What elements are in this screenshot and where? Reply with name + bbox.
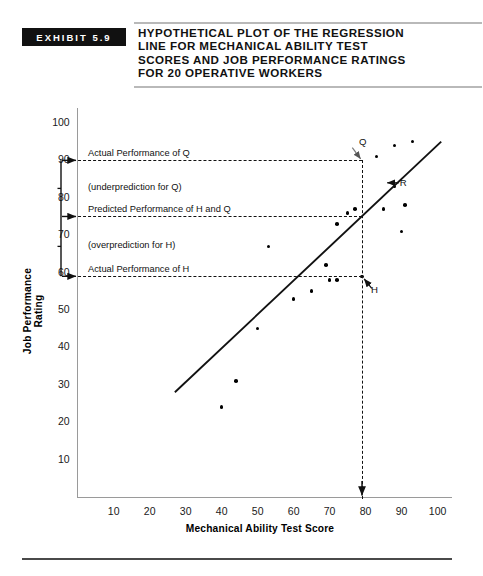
x-tick-10: 10 (101, 505, 127, 517)
x-tick-20: 20 (137, 505, 163, 517)
x-tick-40: 40 (209, 505, 235, 517)
scatter-point (310, 289, 314, 293)
y-axis-title: Job Performance Rating (22, 251, 44, 371)
y-axis-line (77, 108, 78, 498)
scatter-point (220, 405, 224, 409)
y-tick-90: 90 (44, 153, 70, 165)
annotation-actual-performance-h: Actual Performance of H (88, 264, 189, 274)
annotation-predicted-performance-h-q: Predicted Performance of H and Q (88, 204, 231, 214)
scatter-plot: Job Performance Rating Mechanical Abilit… (0, 0, 483, 576)
y-tick-70: 70 (44, 228, 70, 240)
y-tick-80: 80 (44, 191, 70, 203)
annotation-overprediction-h: (overprediction for H) (88, 240, 175, 250)
y-tick-40: 40 (44, 340, 70, 352)
scatter-point (346, 211, 350, 215)
footer-rule (22, 558, 452, 560)
scatter-point (328, 278, 332, 282)
scatter-point (382, 207, 386, 211)
point-label-h: H (371, 284, 378, 295)
reference-line-h-90 (68, 160, 362, 161)
x-axis-title: Mechanical Ability Test Score (150, 523, 370, 534)
scatter-point (234, 379, 238, 383)
scatter-point (411, 140, 415, 144)
x-tick-60: 60 (281, 505, 307, 517)
y-tick-60: 60 (44, 266, 70, 278)
scatter-point (393, 144, 397, 148)
point-label-q: Q (359, 136, 366, 147)
scatter-point (335, 278, 339, 282)
y-tick-50: 50 (44, 303, 70, 315)
exhibit-page: EXHIBIT 5.9 HYPOTHETICAL PLOT OF THE REG… (0, 0, 483, 576)
y-tick-30: 30 (44, 378, 70, 390)
x-tick-50: 50 (245, 505, 271, 517)
scatter-point (335, 222, 339, 226)
scatter-point (353, 207, 357, 211)
scatter-point (267, 245, 271, 249)
y-tick-10: 10 (44, 453, 70, 465)
scatter-point (324, 263, 328, 267)
x-axis-line (77, 497, 452, 498)
annotation-actual-performance-q: Actual Performance of Q (88, 148, 190, 158)
scatter-point (393, 185, 397, 189)
x-tick-90: 90 (389, 505, 415, 517)
callout-arrow-q (352, 148, 360, 159)
scatter-point (403, 203, 407, 207)
scatter-point (256, 327, 260, 331)
annotation-underprediction-q: (underprediction for Q) (88, 182, 182, 192)
x-tick-100: 100 (425, 505, 451, 517)
scatter-point (400, 230, 404, 234)
x-tick-70: 70 (317, 505, 343, 517)
x-tick-30: 30 (173, 505, 199, 517)
x-tick-80: 80 (353, 505, 379, 517)
plot-vector-overlay (0, 0, 483, 576)
reference-line-v-79 (362, 160, 363, 499)
y-tick-100: 100 (44, 116, 70, 128)
y-tick-20: 20 (44, 415, 70, 427)
reference-line-h-59 (68, 276, 362, 277)
scatter-point (375, 155, 379, 159)
point-label-r: R (400, 177, 407, 188)
reference-line-h-75 (68, 216, 362, 217)
scatter-point (292, 297, 296, 301)
